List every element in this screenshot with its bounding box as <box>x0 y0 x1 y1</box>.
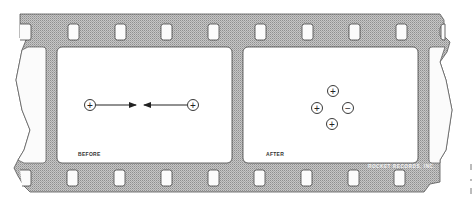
left-torn-edge <box>16 47 46 163</box>
charge-positive-left: + <box>312 103 323 114</box>
svg-text:−: − <box>345 103 351 114</box>
charge-negative-right: − <box>343 103 354 114</box>
charge-positive-left: + <box>85 100 96 111</box>
charge-positive-bottom: + <box>327 119 338 130</box>
svg-text:+: + <box>190 100 196 111</box>
frame-after-label: AFTER <box>266 151 284 157</box>
charge-positive-top: + <box>328 86 339 97</box>
svg-text:+: + <box>314 103 320 114</box>
frame-before-label: BEFORE <box>78 151 101 157</box>
frame-after-window <box>243 47 418 163</box>
frame-after: + + − + AFTER <box>243 47 418 163</box>
right-torn-edge <box>429 47 452 163</box>
svg-text:+: + <box>87 100 93 111</box>
svg-text:+: + <box>329 119 335 130</box>
film-strip-diagram: + + BEFORE + + − + AFTER ROCKET RECORD <box>0 0 473 209</box>
svg-text:+: + <box>330 86 336 97</box>
charge-positive-right: + <box>188 100 199 111</box>
credit-text: ROCKET RECORDS, INC. <box>368 164 435 169</box>
frame-before: + + BEFORE <box>57 47 232 163</box>
